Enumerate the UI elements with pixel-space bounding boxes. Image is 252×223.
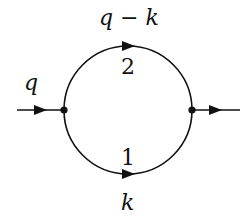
incoming-line: [17, 105, 64, 115]
outgoing-line: [192, 105, 240, 115]
right-vertex: [188, 106, 195, 113]
left-vertex: [60, 106, 67, 113]
incoming-momentum-label: q: [24, 70, 38, 95]
top-propagator-arrow-icon: [122, 41, 135, 51]
top-index-label: 2: [121, 54, 135, 79]
incoming-arrow-icon: [34, 105, 47, 115]
bottom-momentum-label: k: [121, 190, 134, 215]
feynman-diagram: q q − k 2 1 k: [0, 0, 252, 223]
top-momentum-label: q − k: [99, 5, 159, 30]
outgoing-arrow-icon: [209, 105, 222, 115]
bottom-index-label: 1: [121, 145, 135, 170]
bottom-propagator-arrow-icon: [122, 169, 135, 179]
